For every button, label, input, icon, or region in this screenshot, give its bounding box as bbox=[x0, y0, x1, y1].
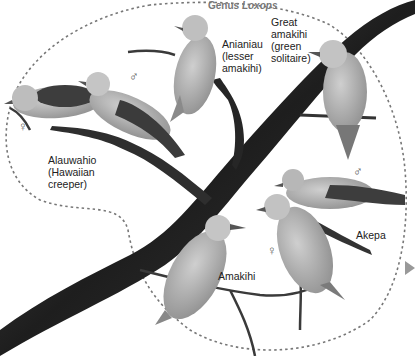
female-symbol-alauwahio: ♀ bbox=[18, 120, 28, 133]
genus-name: Loxops bbox=[242, 0, 278, 11]
next-arrow-icon[interactable] bbox=[405, 261, 415, 275]
label-great-amakihi: Great amakihi (green solitaire) bbox=[271, 16, 311, 64]
male-symbol-alauwahio: ♂ bbox=[129, 70, 139, 83]
bird-anianiau bbox=[167, 15, 223, 122]
genus-prefix: Genus bbox=[208, 0, 242, 11]
female-symbol-akepa: ♀ bbox=[267, 244, 277, 257]
male-symbol-akepa: ♂ bbox=[353, 165, 363, 178]
bird-great-amakihi bbox=[308, 40, 367, 160]
upper-branch bbox=[212, 78, 244, 170]
bird-akepa-male bbox=[274, 169, 405, 209]
label-anianiau: Anianiau (lesser amakihi) bbox=[222, 38, 263, 74]
label-amakihi: Amakihi bbox=[218, 270, 255, 282]
genus-label: Genus Loxops bbox=[208, 0, 277, 11]
label-alauwahio: Alauwahio (Hawaiian creeper) bbox=[48, 154, 96, 190]
label-akepa: Akepa bbox=[356, 229, 386, 241]
